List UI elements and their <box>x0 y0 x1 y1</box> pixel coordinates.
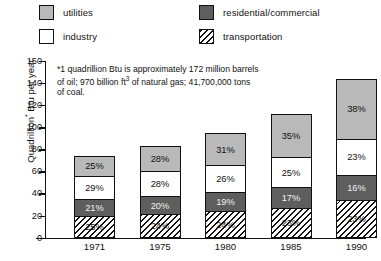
segment-percent-label: 23% <box>282 218 301 228</box>
bar-segment-residential: 20% <box>141 197 180 215</box>
y-tick-label: 20 <box>16 210 42 220</box>
y-tick-label: 40 <box>16 188 42 198</box>
segment-percent-label: 17% <box>282 193 301 203</box>
segment-percent-label: 28% <box>151 154 170 164</box>
x-tick-label: 1980 <box>196 241 256 252</box>
y-axis-title-superscript: * <box>24 114 31 117</box>
stacked-bar: 35%25%17%23% <box>271 114 312 238</box>
legend-label-utilities: utilities <box>63 7 93 18</box>
bar-segment-utilities: 31% <box>206 134 245 166</box>
y-tick-label: 60 <box>16 166 42 176</box>
segment-percent-label: 28% <box>151 179 170 189</box>
bar-segment-industry: 26% <box>206 166 245 193</box>
x-tick-label: 1990 <box>327 241 381 252</box>
x-tick-label: 1971 <box>65 241 125 252</box>
bar-segment-utilities: 28% <box>141 147 180 172</box>
stacked-bar: 28%28%20%24% <box>140 146 181 238</box>
bar-segment-transportation: 24% <box>206 212 245 237</box>
y-tick-label: 120 <box>16 100 42 110</box>
bar-segment-utilities: 35% <box>272 115 311 158</box>
legend-swatch-residential-icon <box>199 5 214 20</box>
segment-percent-label: 24% <box>216 220 235 230</box>
bar-segment-transportation: 25% <box>75 217 114 237</box>
bar-segment-residential: 17% <box>272 188 311 209</box>
legend-item-utilities: utilities <box>39 5 93 20</box>
bar-segment-transportation: 24% <box>141 215 180 237</box>
y-tick-label: 140 <box>16 78 42 88</box>
bar-segment-residential: 19% <box>206 193 245 213</box>
bar-segment-industry: 25% <box>272 158 311 188</box>
stacked-bar: 38%23%16%23% <box>336 79 377 238</box>
segment-percent-label: 25% <box>282 168 301 178</box>
segment-percent-label: 38% <box>347 104 366 114</box>
legend-swatch-utilities-icon <box>39 5 54 20</box>
legend-label-residential-commercial: residential/commercial <box>223 7 320 18</box>
bar-segment-industry: 28% <box>141 172 180 197</box>
segment-percent-label: 31% <box>216 145 235 155</box>
chart-legend: utilities industry residential/commercia… <box>0 0 372 52</box>
stacked-bar: 31%26%19%24% <box>205 133 246 238</box>
bar-segment-utilities: 38% <box>337 80 376 140</box>
segment-percent-label: 24% <box>151 221 170 231</box>
segment-percent-label: 23% <box>347 152 366 162</box>
x-tick-label: 1985 <box>261 241 321 252</box>
x-tick-label: 1975 <box>130 241 190 252</box>
segment-percent-label: 25% <box>85 161 104 171</box>
bar-segment-residential: 21% <box>75 200 114 217</box>
bar-segment-residential: 16% <box>337 176 376 201</box>
legend-swatch-industry-icon <box>39 29 54 44</box>
segment-percent-label: 19% <box>216 197 235 207</box>
y-tick-label: 100 <box>16 122 42 132</box>
bar-segment-industry: 29% <box>75 177 114 200</box>
stacked-bar: 25%29%21%25% <box>74 156 115 238</box>
segment-percent-label: 25% <box>85 222 104 232</box>
legend-label-industry: industry <box>63 31 97 42</box>
y-tick-label: 80 <box>16 144 42 154</box>
bar-segment-transportation: 23% <box>337 201 376 237</box>
legend-label-transportation: transportation <box>223 31 283 42</box>
bar-series-area: 25%29%21%25%28%28%20%24%31%26%19%24%35%2… <box>45 61 366 238</box>
segment-percent-label: 16% <box>347 183 366 193</box>
y-tick-label: 0 <box>16 232 42 242</box>
segment-percent-label: 23% <box>347 214 366 224</box>
segment-percent-label: 29% <box>85 183 104 193</box>
hatch-pattern-icon <box>200 30 213 43</box>
segment-percent-label: 35% <box>282 131 301 141</box>
segment-percent-label: 20% <box>151 201 170 211</box>
segment-percent-label: 26% <box>216 174 235 184</box>
segment-percent-label: 21% <box>85 203 104 213</box>
bar-segment-industry: 23% <box>337 140 376 176</box>
legend-item-industry: industry <box>39 29 97 44</box>
legend-item-residential-commercial: residential/commercial <box>199 5 320 20</box>
y-tick-label: 150 <box>16 56 42 66</box>
legend-item-transportation: transportation <box>199 29 283 44</box>
bar-segment-utilities: 25% <box>75 157 114 177</box>
bar-segment-transportation: 23% <box>272 209 311 237</box>
legend-swatch-transportation-icon <box>199 29 214 44</box>
